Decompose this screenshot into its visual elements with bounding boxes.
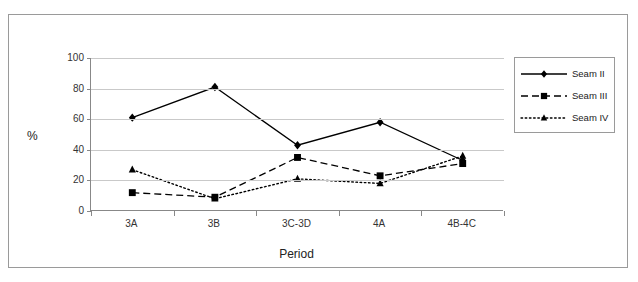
legend-item[interactable]: Seam II	[520, 66, 612, 82]
chart-legend: Seam IISeam IIISeam IV	[514, 57, 615, 133]
gridline	[91, 119, 504, 120]
gridline	[91, 58, 504, 59]
y-tick-mark	[87, 150, 91, 151]
data-point-square	[377, 172, 384, 179]
legend-label: Seam III	[572, 90, 607, 102]
data-point-square	[129, 189, 136, 196]
data-point-square	[294, 154, 301, 161]
data-point-square	[541, 93, 547, 99]
x-tick-label: 3C-3D	[282, 218, 311, 230]
x-tick-mark	[339, 211, 340, 216]
x-tick-label: 3A	[125, 218, 137, 230]
x-tick-mark	[174, 211, 175, 216]
y-tick-mark	[87, 89, 91, 90]
gridline	[91, 180, 504, 181]
data-point-diamond	[541, 70, 547, 78]
y-tick-label: 80	[44, 84, 84, 94]
y-tick-label: 100	[44, 53, 84, 63]
x-tick-mark	[256, 211, 257, 216]
legend-swatch-square-icon	[520, 88, 568, 104]
y-tick-mark	[87, 180, 91, 181]
y-tick-mark	[87, 58, 91, 59]
data-point-diamond	[211, 83, 218, 91]
legend-label: Seam IV	[572, 112, 608, 124]
legend-label: Seam II	[572, 68, 605, 80]
data-point-square	[459, 160, 466, 167]
y-tick-label: 40	[44, 145, 84, 155]
y-tick-mark	[87, 119, 91, 120]
data-point-diamond	[294, 141, 301, 149]
data-point-triangle	[129, 166, 136, 173]
y-axis-tick-labels: 020406080100	[40, 58, 84, 211]
x-tick-label: 3B	[208, 218, 220, 230]
gridline	[91, 150, 504, 151]
x-tick-mark	[421, 211, 422, 216]
figure-frame: % 020406080100 3A3B3C-3D4A4B-4C Period S…	[8, 14, 628, 268]
data-point-triangle	[459, 152, 466, 159]
y-tick-label: 60	[44, 114, 84, 124]
x-axis-title: Period	[90, 247, 503, 261]
chart-screenshot: % 020406080100 3A3B3C-3D4A4B-4C Period S…	[0, 0, 638, 282]
x-tick-label: 4B-4C	[448, 218, 476, 230]
y-tick-label: 0	[44, 206, 84, 216]
y-tick-label: 20	[44, 175, 84, 185]
y-axis-title: %	[27, 129, 38, 143]
x-tick-label: 4A	[373, 218, 385, 230]
data-point-diamond	[129, 113, 136, 121]
gridline	[91, 89, 504, 90]
x-tick-mark	[91, 211, 92, 216]
legend-swatch-diamond-icon	[520, 66, 568, 82]
x-tick-mark	[504, 211, 505, 216]
legend-item[interactable]: Seam IV	[520, 110, 612, 126]
plot-area	[90, 58, 503, 211]
series-layer	[91, 58, 504, 211]
legend-swatch-triangle-icon	[520, 110, 568, 126]
series-1	[129, 83, 466, 165]
x-axis-tick-labels: 3A3B3C-3D4A4B-4C	[90, 218, 503, 232]
legend-item[interactable]: Seam III	[520, 88, 612, 104]
